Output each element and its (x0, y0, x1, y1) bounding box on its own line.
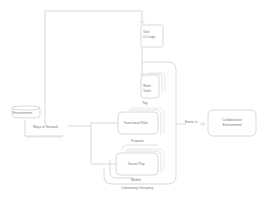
label-social-play: Social Play (128, 162, 145, 166)
label-work: Work (143, 84, 151, 88)
connector-top-loop (45, 11, 142, 125)
label-tools: Tools (143, 89, 151, 93)
connector-trunk (68, 122, 118, 164)
label-ways-in-network: Ways in Network (33, 125, 58, 129)
label-environment-2: Environment (208, 123, 256, 127)
label-or-logic: Or Logic (143, 35, 156, 39)
label-functional-role: Functional Role (124, 121, 148, 125)
label-environment: Environment (13, 111, 32, 115)
label-mobile: Mobile (131, 178, 141, 182)
label-exists-in: Exists in (185, 120, 198, 124)
label-purpose: Purpose (131, 139, 144, 143)
label-tag: Tag (142, 101, 147, 105)
label-community-grouping: Community Grouping (121, 186, 153, 190)
label-tool: Tool (143, 30, 149, 34)
label-collaborative: Collaborative (208, 118, 256, 122)
diagram-canvas (0, 0, 271, 203)
